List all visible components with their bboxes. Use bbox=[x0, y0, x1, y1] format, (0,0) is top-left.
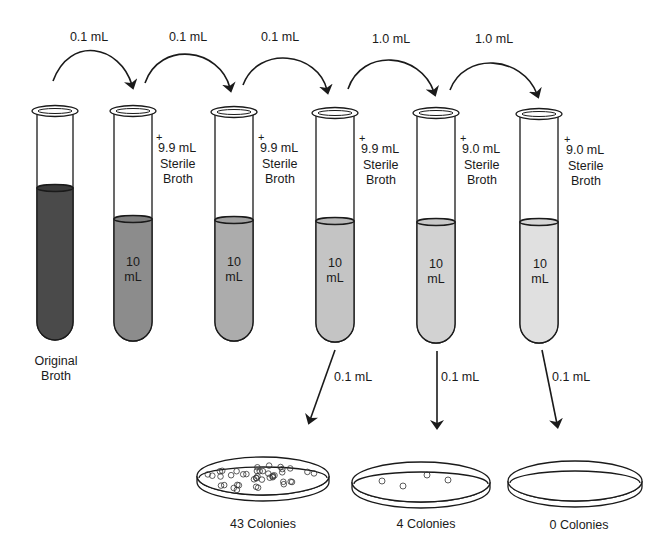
transfer-arrow-3 bbox=[243, 58, 327, 90]
diluent-volume: 9.0 mL bbox=[462, 142, 500, 158]
volume-unit: mL bbox=[225, 270, 242, 285]
diluent-name: Sterile bbox=[361, 158, 399, 174]
diluent-name: Sterile bbox=[462, 158, 500, 174]
volume-unit: mL bbox=[124, 270, 141, 285]
petri-dishes bbox=[197, 457, 642, 508]
transfer-arrow-1 bbox=[53, 51, 132, 85]
diluent-volume: 9.9 mL bbox=[260, 141, 298, 157]
plating-arrow-1 bbox=[310, 350, 335, 420]
tube-4 bbox=[413, 108, 459, 344]
transfer-label-4: 1.0 mL bbox=[372, 32, 410, 47]
petri-dish-2 bbox=[352, 462, 490, 508]
colony-count-3: 0 Colonies bbox=[549, 518, 608, 533]
original-label-line2: Broth bbox=[34, 369, 77, 384]
diluent-volume: 9.0 mL bbox=[566, 143, 604, 159]
diluent-name: Sterile bbox=[260, 157, 298, 173]
volume-unit: mL bbox=[531, 272, 548, 287]
diluent-label-tube-1: + 9.9 mL Sterile Broth bbox=[158, 133, 196, 188]
plus-sign: + bbox=[359, 134, 399, 142]
original-broth-label: Original Broth bbox=[34, 354, 77, 384]
diluent-name: Broth bbox=[361, 173, 399, 189]
tube-4-volume: 10 mL bbox=[427, 257, 444, 287]
transfer-label-5: 1.0 mL bbox=[475, 32, 513, 47]
volume-number: 10 bbox=[427, 257, 444, 272]
tube-1-volume: 10 mL bbox=[124, 255, 141, 285]
transfer-label-3: 0.1 mL bbox=[261, 30, 299, 45]
diluent-label-tube-2: + 9.9 mL Sterile Broth bbox=[260, 133, 298, 188]
volume-number: 10 bbox=[531, 257, 548, 272]
plating-arrows bbox=[310, 350, 557, 425]
plus-sign: + bbox=[564, 135, 604, 143]
diluent-name: Broth bbox=[260, 172, 298, 188]
tube-2-volume: 10 mL bbox=[225, 255, 242, 285]
colony-count-2: 4 Colonies bbox=[396, 517, 455, 532]
plating-volume-2: 0.1 mL bbox=[441, 370, 479, 385]
tube-2 bbox=[211, 107, 257, 342]
plus-sign: + bbox=[258, 133, 298, 141]
diluent-volume: 9.9 mL bbox=[158, 141, 196, 157]
volume-number: 10 bbox=[225, 255, 242, 270]
transfer-label-1: 0.1 mL bbox=[70, 30, 108, 45]
transfer-arrow-2 bbox=[145, 54, 230, 88]
plus-sign: + bbox=[156, 133, 196, 141]
transfer-arrows bbox=[53, 51, 537, 94]
volume-number: 10 bbox=[124, 255, 141, 270]
original-label-line1: Original bbox=[34, 354, 77, 369]
diluent-name: Sterile bbox=[158, 157, 196, 173]
diluent-name: Sterile bbox=[566, 159, 604, 175]
volume-unit: mL bbox=[427, 272, 444, 287]
diluent-name: Broth bbox=[566, 174, 604, 190]
colony-count-1: 43 Colonies bbox=[230, 517, 296, 532]
tube-3-volume: 10 mL bbox=[326, 256, 343, 286]
plus-sign: + bbox=[460, 134, 500, 142]
diluent-label-tube-4: + 9.0 mL Sterile Broth bbox=[462, 134, 500, 189]
diluent-name: Broth bbox=[462, 173, 500, 189]
diluent-name: Broth bbox=[158, 172, 196, 188]
tube-original bbox=[32, 106, 78, 341]
volume-unit: mL bbox=[326, 271, 343, 286]
tube-5-volume: 10 mL bbox=[531, 257, 548, 287]
plating-volume-1: 0.1 mL bbox=[334, 370, 372, 385]
tube-1 bbox=[110, 106, 156, 342]
plating-arrow-3 bbox=[542, 350, 557, 424]
diluent-label-tube-5: + 9.0 mL Sterile Broth bbox=[566, 135, 604, 190]
volume-number: 10 bbox=[326, 256, 343, 271]
transfer-arrow-5 bbox=[450, 63, 537, 94]
diluent-label-tube-3: + 9.9 mL Sterile Broth bbox=[361, 134, 399, 189]
petri-dish-1 bbox=[197, 457, 329, 501]
tube-3 bbox=[312, 108, 358, 343]
plating-volume-3: 0.1 mL bbox=[552, 370, 590, 385]
transfer-arrow-4 bbox=[348, 60, 434, 92]
petri-dish-3 bbox=[508, 461, 642, 507]
diluent-volume: 9.9 mL bbox=[361, 142, 399, 158]
transfer-label-2: 0.1 mL bbox=[169, 30, 207, 45]
tube-5 bbox=[516, 109, 562, 344]
